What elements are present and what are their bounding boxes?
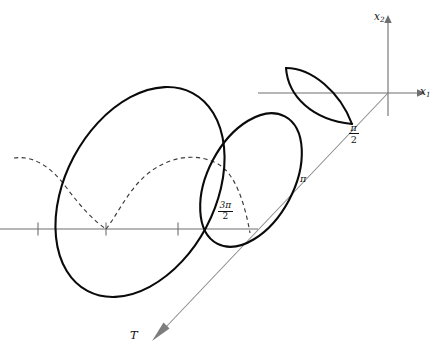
tick-label-pi-over-two: π 2 <box>349 123 359 145</box>
dashed-arch-right <box>106 157 250 233</box>
tick-label-three-pi-over-two: 3π 2 <box>218 201 233 221</box>
x2-axis-group <box>384 15 391 116</box>
figure-canvas <box>0 0 443 356</box>
t-axis-arrowhead <box>152 323 170 342</box>
tick-label-three-pi-over-two-denominator: 2 <box>218 212 233 222</box>
tick-label-pi-over-two-numerator: π <box>349 123 359 133</box>
tick-label-three-pi-over-two-numerator: 3π <box>218 201 233 211</box>
tick-label-pi: π <box>300 174 306 184</box>
x1-axis-label: x1 <box>420 86 431 98</box>
x2-axis-label: x2 <box>374 11 385 23</box>
small-lens-group <box>286 68 352 124</box>
dashed-cycloid-group <box>14 157 250 233</box>
t-axis-label: T <box>130 330 138 342</box>
x2-axis-label-sub: 2 <box>380 15 385 24</box>
ground-axis-group <box>0 223 258 236</box>
tick-label-pi-over-two-denominator: 2 <box>349 134 359 144</box>
x1-axis-group <box>258 89 425 97</box>
math-figure: x2 x1 T π 2 π 3π 2 <box>0 0 443 356</box>
x1-axis-label-sub: 1 <box>426 90 431 99</box>
large-ellipse <box>21 58 259 326</box>
x2-axis-arrowhead <box>384 15 391 23</box>
lens-lower-arc <box>286 68 352 124</box>
large-ellipse-group <box>21 58 259 326</box>
